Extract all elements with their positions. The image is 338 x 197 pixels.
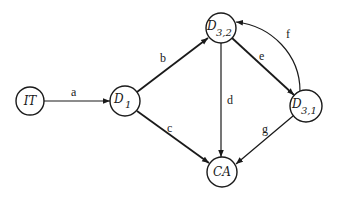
node-label-it: IT (23, 94, 38, 108)
edge-c: c (137, 111, 209, 163)
node-ca: CA (207, 157, 237, 187)
node-sub-d1: 1 (125, 99, 131, 110)
edge-label-g: g (262, 122, 268, 136)
node-sub-d32: 3,2 (216, 27, 232, 38)
edge-label-a: a (71, 85, 77, 99)
edge-b: b (137, 38, 208, 92)
node-it: IT (16, 87, 44, 115)
edge-label-f: f (286, 27, 290, 41)
edge-a: a (44, 85, 110, 101)
node-d32: D 3,2 (206, 13, 236, 43)
edge-label-e: e (259, 49, 264, 63)
edge-e: e (232, 38, 294, 95)
edge-label-c: c (167, 121, 172, 135)
node-sub-d31: 3,1 (301, 105, 317, 116)
edge-label-d: d (227, 93, 233, 107)
node-d31: D 3,1 (290, 90, 322, 122)
node-d1: D 1 (110, 86, 140, 116)
node-label-ca: CA (213, 165, 231, 179)
edge-label-b: b (160, 51, 166, 65)
state-diagram: a b c d e f g IT D 1 D 3,2 D 3,1 (0, 0, 338, 197)
edge-f: f (236, 22, 300, 91)
edge-g: g (236, 116, 293, 164)
node-label-d1: D (113, 92, 124, 106)
edge-d: d (221, 43, 233, 157)
